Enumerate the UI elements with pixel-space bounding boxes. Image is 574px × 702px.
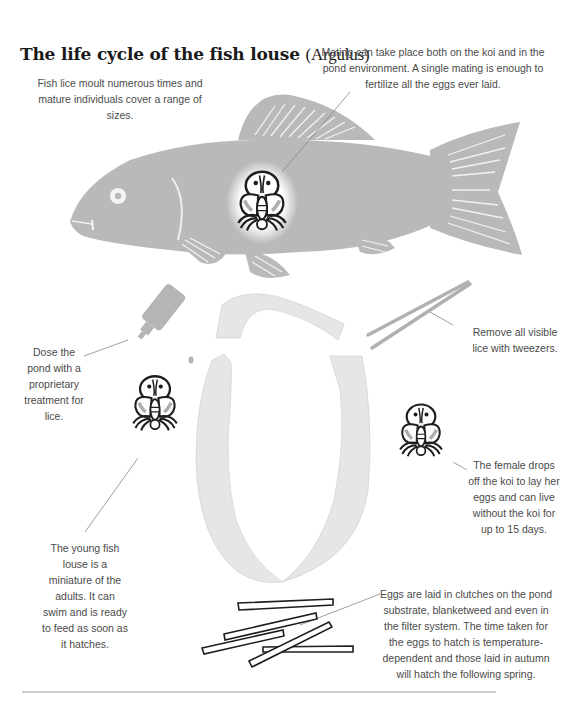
tweezers-icon	[368, 282, 470, 348]
young-louse-icon	[133, 376, 177, 430]
caption-moult: Fish lice moult numerous times and matur…	[24, 75, 216, 123]
cycle-ribbon-icon	[196, 294, 370, 583]
caption-eggs: Eggs are laid in clutches on the pond su…	[377, 586, 555, 682]
caption-young: The young fish louse is a miniature of t…	[42, 540, 128, 652]
caption-tweezers: Remove all visible lice with tweezers.	[465, 324, 565, 356]
caption-female: The female drops off the koi to lay her …	[468, 457, 560, 537]
drop-icon	[188, 357, 193, 364]
fish-louse-icon	[226, 160, 298, 244]
dropper-bottle-icon	[130, 283, 186, 346]
female-louse-icon	[400, 405, 442, 457]
caption-dose: Dose the pond with a proprietary treatme…	[20, 344, 88, 424]
footer-rule	[22, 691, 496, 693]
caption-mating: Mating can take place both on the koi an…	[316, 44, 550, 92]
egg-clutch-icon	[202, 599, 353, 667]
